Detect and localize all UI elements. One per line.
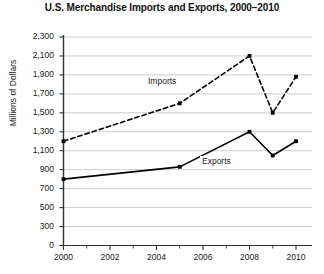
series-line-exports	[64, 132, 297, 179]
data-series-layer	[62, 54, 298, 181]
data-point-marker	[248, 54, 252, 58]
data-point-marker	[248, 130, 252, 134]
data-point-marker	[271, 111, 275, 115]
data-point-marker	[294, 139, 298, 143]
series-label-exports: Exports	[200, 156, 233, 166]
series-line-imports	[64, 56, 297, 141]
data-point-marker	[62, 139, 66, 143]
axis-lines	[64, 35, 313, 246]
data-point-marker	[178, 165, 182, 169]
plot-area	[0, 0, 324, 274]
data-point-marker	[62, 177, 66, 181]
gridlines	[64, 37, 313, 227]
data-point-marker	[178, 101, 182, 105]
x-axis-ticks	[64, 246, 297, 251]
data-point-marker	[271, 154, 275, 158]
data-point-marker	[294, 75, 298, 79]
series-label-imports: Imports	[146, 76, 178, 86]
chart-container: U.S. Merchandise Imports and Exports, 20…	[0, 0, 324, 274]
